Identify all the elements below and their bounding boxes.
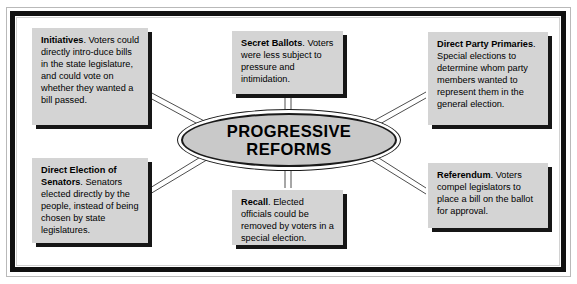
node-box-secret-ballots: Secret Ballots. Voters were less subject… [232,31,343,94]
node-term-recall: Recall [241,197,268,207]
center-node-label-line1: PROGRESSIVE [227,122,352,140]
node-box-referendum: Referendum. Voters compel legislators to… [428,163,548,228]
node-term-initiatives: Initiatives [41,35,83,45]
node-box-direct-party-primaries: Direct Party Primaries. Special election… [428,32,548,125]
node-term-referendum: Referendum [437,170,491,180]
center-node-progressive-reforms: PROGRESSIVE REFORMS [177,109,401,171]
node-body-direct-party-primaries: . Special elections to determine whom pa… [437,39,536,109]
center-node-label: PROGRESSIVE REFORMS [177,109,401,171]
progressive-reforms-diagram: PROGRESSIVE REFORMS Initiatives. Voters … [0,0,577,284]
node-box-recall: Recall. Elected officials could be remov… [232,190,343,245]
node-term-direct-party-primaries: Direct Party Primaries [437,39,533,49]
center-node-label-line2: REFORMS [246,140,331,158]
node-box-initiatives: Initiatives. Voters could directly intro… [32,28,148,125]
node-body-initiatives: . Voters could directly intro-duce bills… [41,35,139,105]
node-box-direct-election-of-senators: Direct Election of Senators. Senators el… [32,158,148,243]
node-term-secret-ballots: Secret Ballots [241,38,302,48]
